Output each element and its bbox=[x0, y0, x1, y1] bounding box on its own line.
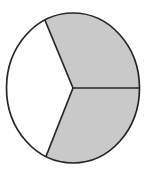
figure-container bbox=[0, 0, 167, 175]
circle-sector-diagram bbox=[0, 0, 167, 175]
